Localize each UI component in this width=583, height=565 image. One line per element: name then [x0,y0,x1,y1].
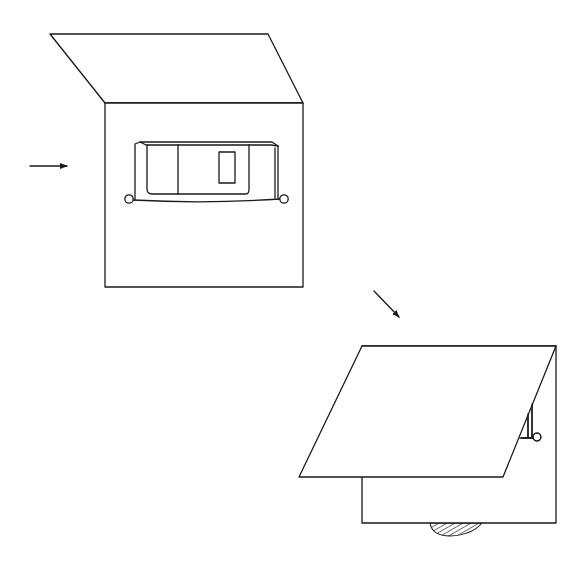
arrow-down-right-icon [374,291,399,317]
view-open [30,34,303,287]
view-closed [299,291,556,536]
mount-hole-right-icon [280,195,288,203]
diagram-canvas [0,0,583,565]
mount-hole-left-icon [125,195,133,203]
open-lid [50,34,303,103]
hatched-foot [430,523,482,536]
